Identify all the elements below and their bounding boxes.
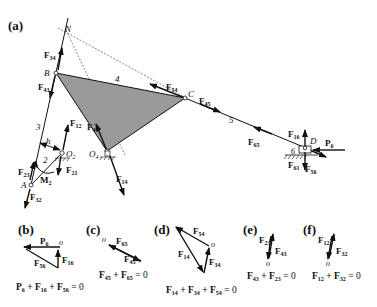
panel-b-label: (b) [18,222,34,237]
panel-a-label: (a) [8,18,23,33]
label-h: h [46,136,51,146]
panel-c-label: (c) [86,222,100,237]
origin-b: o [59,238,63,247]
joint-B [54,71,58,75]
panel-a: (a) [8,18,345,208]
label-F32: F32 [30,192,42,203]
label-F16: F16 [288,129,300,140]
equation-e: F43 + F23 = 0 [247,271,296,282]
polygon-f-label-F12: F12 [318,235,330,246]
joint-A [29,183,33,187]
label-C: C [188,89,195,99]
polygon-c-label-F65: F65 [116,236,128,247]
panel-d-label: (d) [154,222,170,237]
link-3 [31,18,68,185]
label-F34: F34 [44,50,56,61]
label-O4: O4 [89,149,99,160]
origin-e: o [266,259,270,268]
polygon-e-label-F43: F43 [275,246,287,257]
equation-c: F45 + F65 = 0 [99,270,148,281]
polygon-d-label-F14: F14 [178,249,190,260]
panel-c: (c) o F65 F45 F45 + F65 = 0 [86,222,148,281]
joint-C [183,96,187,100]
pivot-O2 [60,151,64,155]
joint-D [303,146,307,150]
F65-arrow [254,127,272,134]
polygon-d-label-F34: F34 [209,257,221,268]
label-link-6: 6 [291,147,295,156]
panel-f: (f) o F12 F32 F12 + F32 = 0 [303,222,361,282]
panel-e-label: (e) [243,222,257,237]
panel-e: (e) o F23 F43 F43 + F23 = 0 [243,222,296,282]
F21-arrow [58,156,61,175]
origin-c: o [102,235,106,244]
label-F45: F45 [199,96,211,107]
label-link-4: 4 [115,74,120,84]
origin-f: o [326,259,330,268]
force-analysis-diagram: (a) [0,0,377,307]
polygon-f-label-F32: F32 [336,246,348,257]
polygon-d-label-F54: F54 [193,226,205,237]
polygon-e-label-F23: F23 [259,235,271,246]
equation-b: P6 + F16 + F56 = 0 [16,282,84,293]
label-F12: F12 [70,118,82,129]
origin-d: o [211,240,215,249]
label-F23: F23 [18,167,30,178]
label-A: A [20,180,27,190]
panel-f-label: (f) [303,222,316,237]
equation-f: F12 + F32 = 0 [312,271,361,282]
F12-arrow [63,125,68,150]
label-O2: O2 [66,149,76,160]
label-F54: F54 [166,82,178,93]
label-F21: F21 [66,165,78,176]
F23-arrow [30,162,34,180]
panel-b: (b) o P6 F16 F56 P6 + F16 + F56 = 0 [16,222,84,293]
polygon-b-label-F16: F16 [62,255,74,266]
ground-hatch-O4 [100,157,116,160]
label-F65: F65 [248,137,260,148]
label-N: N [64,24,72,34]
F43-arrow [50,76,55,98]
label-F61: F61 [288,160,300,171]
panel-d: (d) o F54 F14 F34 F14 + F34 + F54 = 0 [154,222,237,296]
polygon-b-label-P6: P6 [40,236,49,247]
label-link-2: 2 [43,155,48,165]
label-F43: F43 [38,82,50,93]
pivot-O4-base [105,151,110,156]
equation-d: F14 + F34 + F54 = 0 [166,285,237,296]
label-link-5: 5 [229,115,234,125]
label-D: D [309,136,317,146]
label-F14: F14 [116,174,128,185]
label-link-3: 3 [35,122,41,132]
label-P6: P6 [325,138,334,149]
label-F56: F56 [305,164,317,175]
ground-hatch-D [284,155,307,159]
label-B: B [44,68,50,78]
label-M2: M2 [40,175,52,186]
